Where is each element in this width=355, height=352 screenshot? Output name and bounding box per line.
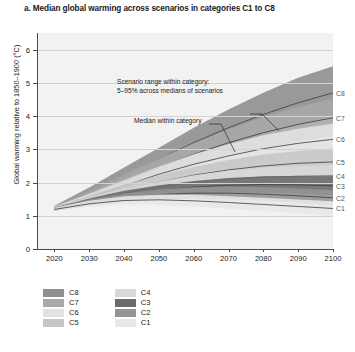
x-tick [159, 249, 160, 252]
legend-label-c5: C5 [69, 319, 79, 327]
legend-swatch-c1 [115, 319, 136, 327]
x-tick-label: 2030 [81, 254, 98, 263]
legend-item-c7[interactable]: C7 [43, 299, 79, 307]
edge-label-c7: C7 [336, 114, 345, 121]
edge-label-c5: C5 [336, 158, 345, 165]
y-tick [33, 116, 37, 117]
y-tick [33, 83, 37, 84]
y-tick-label: 3 [16, 145, 30, 154]
x-tick [194, 249, 195, 252]
legend-item-c6[interactable]: C6 [43, 309, 79, 317]
y-tick-label: 0 [16, 245, 30, 254]
legend-item-c2[interactable]: C2 [115, 309, 151, 317]
x-tick [333, 249, 334, 252]
y-tick [33, 249, 37, 250]
legend-item-c5[interactable]: C5 [43, 319, 79, 327]
gridline [37, 149, 333, 150]
legend-swatch-c2 [115, 309, 136, 317]
edge-label-c8: C8 [336, 89, 345, 96]
annotation-range-line2: 5–95% across medians of scenarios [117, 87, 223, 96]
legend-swatch-c7 [43, 299, 64, 307]
annotation-range-line1: Scenario range within category: [117, 78, 223, 87]
legend-swatch-c3 [115, 299, 136, 307]
annotation-scenario-range: Scenario range within category: 5–95% ac… [117, 78, 223, 96]
x-tick [298, 249, 299, 252]
y-tick [33, 183, 37, 184]
x-tick-label: 2040 [116, 254, 133, 263]
legend: C8C4C7C3C6C2C5C1 [43, 289, 150, 327]
x-tick-label: 2090 [290, 254, 307, 263]
x-tick [124, 249, 125, 252]
y-tick-label: 2 [16, 178, 30, 187]
figure: a. Median global warming across scenario… [0, 0, 355, 352]
x-tick [54, 249, 55, 252]
chart-title: a. Median global warming across scenario… [24, 4, 275, 13]
x-tick-label: 2070 [220, 254, 237, 263]
gridline [37, 183, 333, 184]
plot-area [37, 33, 333, 249]
edge-label-c3: C3 [336, 182, 345, 189]
x-tick [229, 249, 230, 252]
legend-item-c8[interactable]: C8 [43, 289, 79, 297]
legend-swatch-c5 [43, 319, 64, 327]
annotation-median: Median within category [134, 117, 201, 126]
gridline [37, 50, 333, 51]
y-tick [33, 216, 37, 217]
y-tick-label: 1 [16, 211, 30, 220]
x-tick-label: 2060 [185, 254, 202, 263]
legend-swatch-c8 [43, 289, 64, 297]
gridline [37, 216, 333, 217]
x-tick-label: 2100 [325, 254, 342, 263]
y-tick [33, 50, 37, 51]
legend-label-c1: C1 [141, 319, 151, 327]
edge-label-c4: C4 [336, 172, 345, 179]
edge-label-c2: C2 [336, 194, 345, 201]
x-tick-label: 2020 [46, 254, 63, 263]
legend-label-c7: C7 [69, 299, 79, 307]
x-tick [263, 249, 264, 252]
y-tick-label: 4 [16, 112, 30, 121]
y-tick [33, 149, 37, 150]
legend-item-c3[interactable]: C3 [115, 299, 151, 307]
legend-label-c8: C8 [69, 289, 79, 297]
x-axis-line [37, 249, 333, 250]
x-tick-label: 2080 [255, 254, 272, 263]
legend-item-c1[interactable]: C1 [115, 319, 151, 327]
y-tick-label: 5 [16, 78, 30, 87]
legend-label-c4: C4 [141, 289, 151, 297]
y-tick-label: 6 [16, 45, 30, 54]
y-axis-line [37, 33, 38, 249]
legend-label-c2: C2 [141, 309, 151, 317]
legend-label-c6: C6 [69, 309, 79, 317]
legend-swatch-c4 [115, 289, 136, 297]
edge-label-c6: C6 [336, 136, 345, 143]
legend-item-c4[interactable]: C4 [115, 289, 151, 297]
edge-label-c1: C1 [336, 205, 345, 212]
legend-swatch-c6 [43, 309, 64, 317]
x-tick-label: 2050 [150, 254, 167, 263]
x-tick [89, 249, 90, 252]
legend-label-c3: C3 [141, 299, 151, 307]
